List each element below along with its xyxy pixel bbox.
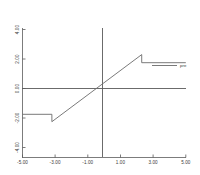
y-axis-tick-labels: 4.00 2.00 0.00 -2.00 -4.00: [15, 24, 20, 153]
plot-canvas: -5.00 -3.00 -1.00 1.00 3.00 5.00 4.00 2.…: [0, 0, 200, 175]
x-tick-label: 5.00: [181, 160, 191, 165]
x-tick-label: -5.00: [17, 160, 28, 165]
chart-container: -5.00 -3.00 -1.00 1.00 3.00 5.00 4.00 2.…: [0, 0, 200, 175]
y-tick-label: 0.00: [15, 83, 20, 93]
x-axis-ticks: [23, 155, 186, 158]
y-axis-ticks: [23, 30, 26, 148]
legend-label: pre: [180, 63, 187, 68]
x-axis-tick-labels: -5.00 -3.00 -1.00 1.00 3.00 5.00: [17, 160, 191, 165]
x-tick-label: 3.00: [148, 160, 158, 165]
y-tick-label: 4.00: [15, 24, 20, 34]
legend: pre: [152, 63, 187, 68]
x-tick-label: -3.00: [50, 160, 61, 165]
x-tick-label: 1.00: [116, 160, 126, 165]
x-tick-label: -1.00: [82, 160, 93, 165]
y-tick-label: 2.00: [15, 54, 20, 64]
y-tick-label: -2.00: [15, 112, 20, 123]
y-tick-label: -4.00: [15, 142, 20, 153]
